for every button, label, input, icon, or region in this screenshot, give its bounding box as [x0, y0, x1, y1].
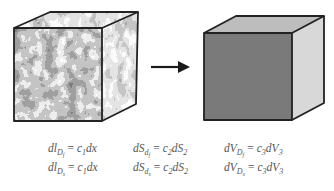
equals-sign: =	[151, 161, 164, 173]
eq-var: dV	[266, 142, 279, 154]
equals-sign: =	[65, 161, 78, 173]
eq-var: dS	[172, 161, 184, 173]
eq-lhs: dS	[133, 161, 145, 173]
equation-surface: dSdf=c2dS2	[133, 142, 187, 158]
eq-var-sub: 2	[183, 148, 187, 157]
equation-volume: dVDf=c3dV3	[224, 142, 283, 158]
eq-lhs: dl	[48, 142, 57, 154]
equation-length: dlDf=c1dx	[48, 142, 97, 158]
eq-lhs: dV	[224, 161, 237, 173]
eq-var: dV	[267, 161, 280, 173]
equals-sign: =	[64, 142, 77, 154]
right-arrow-icon	[151, 61, 190, 73]
textured-cube	[10, 8, 142, 126]
eq-lhs: dV	[224, 142, 237, 154]
homogeneous-cube	[204, 16, 324, 120]
equals-sign: =	[150, 142, 163, 154]
equation-row-fracture: dlDf=c1dx dSdf=c2dS2 dVDf=c3dV3	[0, 142, 334, 160]
cube-transformation-figure	[0, 0, 334, 135]
eq-var-sub: 2	[184, 167, 188, 176]
eq-var: dx	[86, 142, 97, 154]
eq-var-sub: 3	[279, 167, 283, 176]
eq-lhs: dS	[133, 142, 145, 154]
equation-length: dlDs=c1dx	[48, 161, 98, 177]
equals-sign: =	[244, 142, 257, 154]
equation-volume: dVDs=c3dV3	[224, 161, 283, 177]
equation-surface: dSds=c2dS2	[133, 161, 188, 177]
homogeneous-cube-side-face	[292, 16, 324, 120]
eq-var: dx	[87, 161, 98, 173]
equals-sign: =	[245, 161, 258, 173]
eq-var-sub: 3	[279, 148, 283, 157]
eq-var: dS	[172, 142, 184, 154]
eq-lhs: dl	[48, 161, 57, 173]
homogeneous-cube-front-face	[204, 33, 292, 120]
equation-row-solid: dlDs=c1dx dSds=c2dS2 dVDs=c3dV3	[0, 161, 334, 179]
